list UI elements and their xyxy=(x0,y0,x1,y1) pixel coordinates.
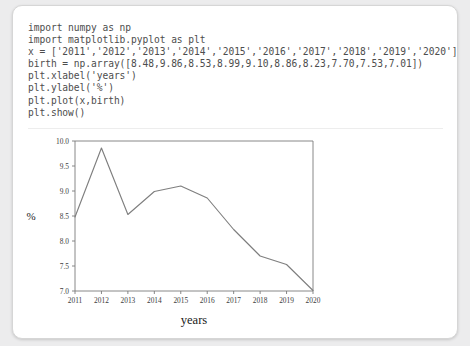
code-line: import numpy as np xyxy=(28,22,445,34)
y-tick-label: 7.0 xyxy=(60,287,70,296)
matplotlib-figure: 10.09.59.08.58.07.57.0201120122013201420… xyxy=(13,132,457,338)
code-line: plt.show() xyxy=(28,107,445,119)
x-tick-label: 2019 xyxy=(279,296,294,305)
y-axis-title: % xyxy=(26,210,35,222)
x-tick-label: 2014 xyxy=(147,296,162,305)
x-tick-label: 2017 xyxy=(226,296,241,305)
cell-output-divider xyxy=(28,128,443,129)
data-series-line xyxy=(75,148,313,291)
x-tick-label: 2012 xyxy=(94,296,109,305)
code-block[interactable]: import numpy as np import matplotlib.pyp… xyxy=(28,22,445,119)
code-line: plt.xlabel('years') xyxy=(28,70,445,82)
y-tick-label: 10.0 xyxy=(56,137,69,146)
y-tick-label: 8.5 xyxy=(60,212,70,221)
code-line: x = ['2011','2012','2013','2014','2015',… xyxy=(28,46,445,58)
x-tick-label: 2011 xyxy=(68,296,83,305)
x-tick-label: 2013 xyxy=(120,296,135,305)
x-tick-label: 2016 xyxy=(200,296,215,305)
y-tick-label: 9.5 xyxy=(60,162,70,171)
x-tick-label: 2015 xyxy=(173,296,188,305)
code-line: birth = np.array([8.48,9.86,8.53,8.99,9.… xyxy=(28,58,445,70)
y-tick-label: 9.0 xyxy=(60,187,70,196)
y-tick-label: 8.0 xyxy=(60,237,70,246)
x-tick-label: 2020 xyxy=(306,296,321,305)
code-line: plt.plot(x,birth) xyxy=(28,95,445,107)
code-line: import matplotlib.pyplot as plt xyxy=(28,34,445,46)
axes-spines xyxy=(75,141,313,291)
y-tick-label: 7.5 xyxy=(60,262,70,271)
code-line: plt.ylabel('%') xyxy=(28,82,445,94)
line-chart: 10.09.59.08.58.07.57.0201120122013201420… xyxy=(13,132,457,338)
x-axis-title: years xyxy=(181,313,208,327)
notebook-cell-card: import numpy as np import matplotlib.pyp… xyxy=(12,5,458,339)
x-tick-label: 2018 xyxy=(253,296,268,305)
